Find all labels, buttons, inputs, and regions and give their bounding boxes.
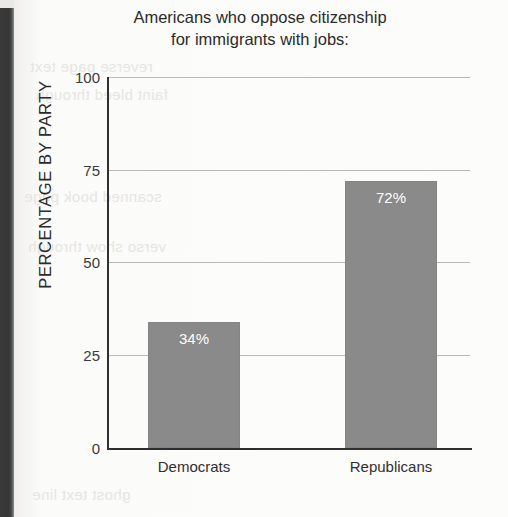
bar-republicans[interactable]: 72%	[345, 181, 437, 448]
scan-edge-band-top-gap	[0, 0, 14, 8]
chart-title: Americans who oppose citizenship for imm…	[60, 6, 460, 50]
gridline-100	[109, 77, 470, 78]
x-axis-line	[107, 448, 472, 450]
y-axis-ticks: 100 75 50 25 0	[48, 77, 100, 448]
y-tick-label-50: 50	[54, 255, 100, 270]
scan-edge-band	[0, 0, 14, 517]
bar-value-republicans: 72%	[345, 190, 437, 205]
y-tick-label-25: 25	[54, 348, 100, 363]
chart-title-line-1: Americans who oppose citizenship	[60, 6, 460, 28]
y-tick-label-75: 75	[54, 163, 100, 178]
category-label-democrats: Democrats	[138, 459, 250, 474]
gridline-75	[109, 170, 470, 171]
bar-democrats[interactable]: 34%	[148, 322, 240, 448]
category-label-republicans: Republicans	[335, 459, 447, 474]
y-axis-line	[107, 77, 109, 448]
chart-page: reverse page text faint bleed through sc…	[0, 0, 508, 517]
y-tick-label-0: 0	[54, 441, 100, 456]
y-tick-label-100: 100	[54, 70, 100, 85]
chart-title-line-2: for immigrants with jobs:	[60, 28, 460, 50]
plot-area: 34% 72% Democrats Republicans	[107, 77, 470, 448]
bar-value-democrats: 34%	[148, 331, 240, 346]
